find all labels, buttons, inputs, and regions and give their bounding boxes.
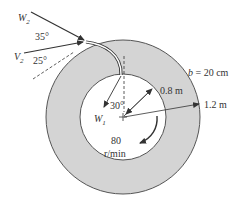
- angle-25-label: 25°: [33, 55, 47, 66]
- v2-arrow: [24, 42, 83, 53]
- blade-width-label: b = 20 cm: [188, 67, 229, 78]
- impeller-diagram: W2 35° V2 25° 30° W1 0.8 m 1.2 m b = 20 …: [0, 0, 240, 206]
- outer-radius-label: 1.2 m: [204, 99, 227, 110]
- v2-label: V2: [14, 51, 24, 65]
- speed-unit-label: r/min: [104, 148, 126, 159]
- inner-radius-label: 0.8 m: [160, 85, 183, 96]
- angle-35-label: 35°: [35, 31, 49, 42]
- speed-value-label: 80: [111, 135, 121, 146]
- w2-label: W2: [18, 12, 30, 26]
- angle-30-label: 30°: [110, 100, 124, 111]
